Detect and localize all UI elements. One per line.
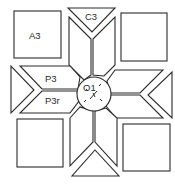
label-p3: P3 xyxy=(45,73,57,84)
label-p3r: P3r xyxy=(45,95,60,106)
quilt-diagram: A3 C3 P3 P3r O1 xyxy=(0,0,175,184)
label-o1: O1 xyxy=(83,82,96,93)
corner-square-bottom-left xyxy=(17,119,63,167)
corner-square-bottom-right xyxy=(123,124,170,171)
label-c3: C3 xyxy=(85,11,97,22)
corner-square-top-right xyxy=(121,13,167,61)
label-a3: A3 xyxy=(29,30,41,41)
